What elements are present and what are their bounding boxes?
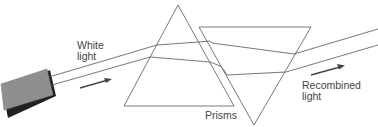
recombined-light-beams (286, 29, 378, 72)
recombined-light-label-line2: light (302, 91, 361, 102)
dispersed-beams (150, 41, 294, 75)
direction-arrow-left-icon (80, 78, 112, 88)
prism-recombination-diagram: White light Prisms Recombined light (0, 0, 378, 127)
white-light-label: White light (77, 40, 104, 62)
diagram-canvas (0, 0, 378, 127)
white-light-label-line2: light (77, 51, 104, 62)
light-source-icon (1, 69, 56, 118)
recombined-light-label: Recombined light (302, 80, 361, 102)
direction-arrow-right-icon (311, 64, 345, 75)
left-prism (124, 5, 234, 106)
prisms-label: Prisms (205, 110, 237, 121)
